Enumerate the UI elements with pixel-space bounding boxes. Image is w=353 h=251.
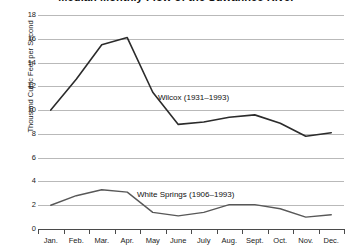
series-annotation-white-springs: White Springs (1906–1993) (137, 190, 234, 199)
series-line (51, 38, 332, 137)
series-layer (0, 0, 353, 251)
series-annotation-wilcox: Wilcox (1931–1993) (158, 93, 229, 102)
chart-figure: Median Monthly Flow of the Suwannee Rive… (0, 0, 353, 251)
